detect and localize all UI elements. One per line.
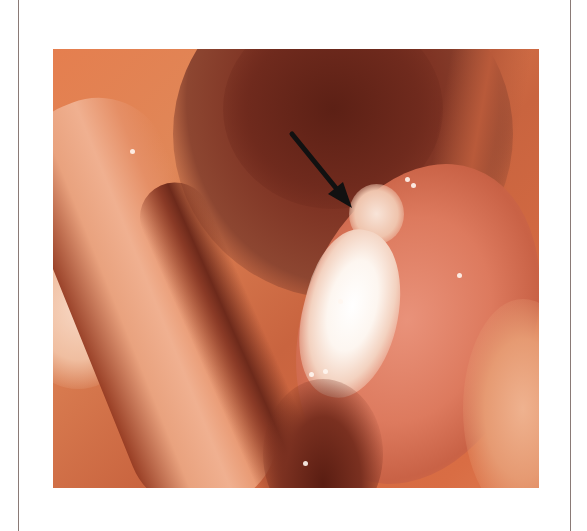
light-reflection [338, 299, 343, 304]
frame-border-left [18, 0, 19, 531]
light-reflection [405, 177, 410, 182]
light-reflection [323, 369, 328, 374]
frame-border-right [570, 0, 571, 531]
light-reflection [130, 149, 135, 154]
light-reflection [303, 461, 308, 466]
laryngoscopy-photo [53, 49, 539, 488]
light-reflection [309, 372, 314, 377]
light-reflection [457, 273, 462, 278]
light-reflection [411, 183, 416, 188]
